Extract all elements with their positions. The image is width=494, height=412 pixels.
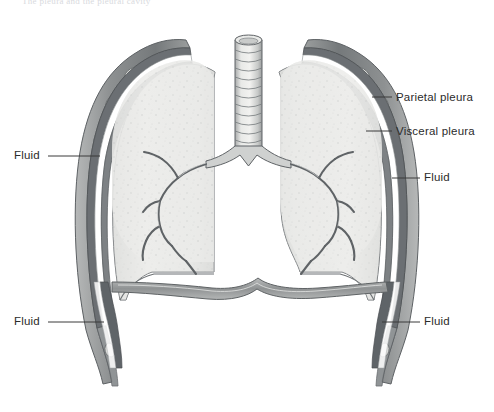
label-fluid-lower-left: Fluid (14, 316, 40, 328)
label-visceral-pleura: Visceral pleura (396, 126, 475, 138)
tracheal-lumen-inner (239, 38, 258, 44)
label-fluid-upper-left: Fluid (14, 150, 40, 162)
diaphragm (112, 278, 388, 299)
carina (206, 146, 291, 168)
label-fluid-upper-right: Fluid (424, 172, 450, 184)
pleural-anatomy-figure: The pleura and the pleural cavity (0, 0, 494, 412)
figure-caption: The pleura and the pleural cavity (22, 0, 151, 6)
anatomy-illustration-svg (0, 0, 494, 412)
left-hemithorax (75, 40, 230, 386)
label-fluid-lower-right: Fluid (424, 316, 450, 328)
trachea (235, 40, 262, 148)
label-parietal-pleura: Parietal pleura (396, 92, 473, 104)
